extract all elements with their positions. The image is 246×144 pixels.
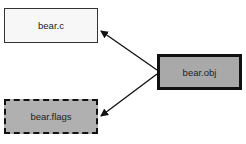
node-bear-obj: bear.obj [157,54,242,90]
node-label: bear.c [38,20,64,31]
node-bear-c: bear.c [4,8,98,43]
edge-obj-to-flags [101,74,157,116]
node-label: bear.flags [30,111,71,122]
node-bear-flags: bear.flags [4,99,98,134]
node-label: bear.obj [183,67,217,78]
edge-obj-to-c [101,31,157,70]
